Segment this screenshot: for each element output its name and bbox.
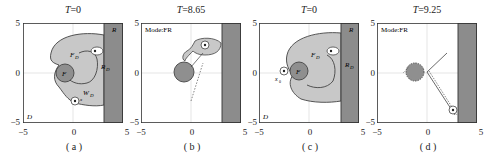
caption-a: ( a ) [23, 141, 125, 152]
xtick-mid: 0 [184, 127, 200, 137]
region-FD [183, 38, 221, 61]
ytick-bottom: −5 [8, 117, 20, 127]
ytick-mid: 0 [245, 68, 257, 78]
time-value: =8.65 [182, 4, 205, 15]
panel-b: T=8.65 5 0 −5 Mode:FR −5 0 5 ( b ) [118, 0, 240, 158]
panel-c: T=0 5 0 −5 FD RD F R D x0 −5 0 5 ( c ) [236, 0, 358, 158]
svg-text:x: x [274, 76, 278, 82]
time-value: =0 [306, 4, 317, 15]
panel-d: T=9.25 5 0 −5 Mode:FR −5 0 5 ( d ) [354, 0, 476, 158]
panel-c-title: T=0 [258, 4, 360, 15]
xtick-left: −5 [251, 127, 267, 137]
mode-label: Mode:FR [381, 26, 408, 34]
ytick-mid: 0 [363, 68, 375, 78]
ytick-bottom: −5 [245, 117, 257, 127]
mode-label: Mode:FR [145, 26, 172, 34]
plot-area-a: FD RD WD F R D x [23, 23, 123, 123]
ytick-top: 5 [8, 18, 20, 28]
panel-a-title: T=0 [22, 4, 124, 15]
svg-text:F: F [295, 68, 301, 76]
xtick-mid: 0 [302, 127, 318, 137]
svg-text:D: D [262, 113, 268, 121]
time-value: =0 [70, 4, 81, 15]
svg-text:D: D [315, 55, 320, 60]
ytick-bottom: −5 [363, 117, 375, 127]
panel-d-title: T=9.25 [376, 4, 478, 15]
ytick-top: 5 [363, 18, 375, 28]
xtick-left: −5 [133, 127, 149, 137]
svg-text:D: D [89, 93, 94, 98]
caption-c: ( c ) [259, 141, 361, 152]
ytick-top: 5 [245, 18, 257, 28]
ytick-mid: 0 [8, 68, 20, 78]
ytick-top: 5 [127, 18, 139, 28]
svg-text:R: R [111, 26, 117, 34]
svg-text:D: D [26, 113, 32, 121]
time-value: =9.25 [418, 4, 441, 15]
ytick-bottom: −5 [127, 117, 139, 127]
xtick-mid: 0 [66, 127, 82, 137]
ytick-mid: 0 [127, 68, 139, 78]
plot-area-c: FD RD F R D x0 [259, 23, 359, 123]
xtick-left: −5 [369, 127, 385, 137]
panel-a: T=0 5 0 −5 FD RD WD F R D x −5 0 5 ( a ) [0, 0, 122, 158]
xtick-left: −5 [15, 127, 31, 137]
plot-area-b: Mode:FR [141, 23, 241, 123]
xtick-right: 5 [473, 127, 486, 137]
panel-b-title: T=8.65 [140, 4, 242, 15]
svg-text:D: D [74, 55, 79, 60]
caption-d: ( d ) [377, 141, 479, 152]
obstacle-F [174, 62, 194, 82]
region-R [458, 23, 477, 123]
svg-text:0: 0 [279, 79, 281, 84]
svg-text:D: D [105, 67, 110, 72]
xtick-mid: 0 [420, 127, 436, 137]
svg-text:F: F [61, 70, 67, 78]
plot-area-d: Mode:FR [377, 23, 477, 123]
obstacle-F [406, 63, 424, 81]
caption-b: ( b ) [141, 141, 243, 152]
